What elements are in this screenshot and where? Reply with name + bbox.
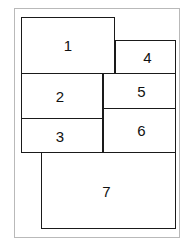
block-1[interactable]: 1	[21, 17, 115, 74]
block-4[interactable]: 4	[115, 40, 176, 74]
figure-canvas: 1 4 2 5 3 6 7	[0, 0, 194, 252]
block-3[interactable]: 3	[21, 118, 103, 153]
block-3-label: 3	[56, 129, 64, 144]
block-5-label: 5	[137, 84, 145, 99]
block-6-label: 6	[137, 123, 145, 138]
block-2[interactable]: 2	[21, 73, 103, 119]
block-6[interactable]: 6	[103, 108, 176, 153]
block-5[interactable]: 5	[103, 73, 176, 109]
block-1-label: 1	[64, 38, 72, 53]
block-2-label: 2	[56, 89, 64, 104]
block-7-label: 7	[102, 184, 110, 199]
block-7[interactable]: 7	[41, 152, 176, 229]
block-4-label: 4	[143, 50, 151, 65]
